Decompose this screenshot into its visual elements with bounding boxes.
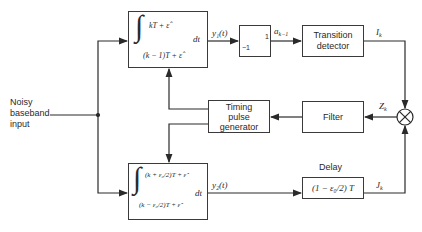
bottom-integrator-block: ∫ (k + ε₀/2)T + ε̂ (k − ε₀/2)T + ε̂ dt	[128, 163, 208, 220]
limiter-low-label: −1	[242, 42, 250, 53]
timing-line-2: pulse	[228, 112, 250, 122]
y2-signal-label: y₂(t)	[212, 180, 228, 191]
integral-sign-icon: ∫	[135, 20, 143, 31]
transition-detector-line-1: Transition	[313, 30, 352, 41]
top-integrator-upper-limit: kT + ε̂	[149, 20, 169, 31]
I-subscript: k	[379, 32, 382, 38]
Z-signal-label: Zk	[379, 101, 387, 115]
hard-limiter-block: −1 1	[239, 25, 271, 57]
transition-detector-line-2: detector	[317, 41, 350, 52]
filter-label: Filter	[323, 112, 343, 123]
J-subscript: k	[380, 185, 383, 191]
J-signal-label: Jk	[376, 180, 383, 194]
timing-line-1: Timing	[226, 102, 253, 112]
timing-line-3: generator	[220, 122, 259, 132]
a-signal-label: ak−1	[274, 26, 288, 40]
bottom-integrator-lower-limit: (k − ε₀/2)T + ε̂	[139, 200, 180, 211]
delay-title: Delay	[319, 162, 342, 173]
y1-signal-label: y₁(t)	[212, 28, 228, 39]
a-subscript: k−1	[279, 31, 289, 37]
bottom-integrator-dt: dt	[195, 188, 202, 199]
integral-sign-icon: ∫	[133, 172, 141, 183]
delay-block: (1 − ε₀/2) T	[302, 177, 364, 199]
noisy-baseband-input-label: Noisy baseband input	[10, 97, 58, 130]
transition-detector-block: Transition detector	[302, 25, 364, 57]
top-integrator-block: ∫ kT + ε̂ (k − 1)T + ε̂ dt	[128, 11, 208, 68]
limiter-high-label: 1	[265, 31, 269, 42]
input-line-2: baseband	[10, 108, 58, 119]
Z-subscript: k	[384, 106, 387, 112]
delay-expression: (1 − ε₀/2) T	[312, 183, 354, 194]
timing-pulse-generator-block: Timing pulse generator	[208, 100, 270, 133]
filter-block: Filter	[302, 101, 364, 133]
input-line-3: input	[10, 119, 58, 130]
I-signal-label: Ik	[376, 27, 382, 41]
bottom-integrator-upper-limit: (k + ε₀/2)T + ε̂	[145, 170, 186, 181]
top-integrator-dt: dt	[193, 34, 200, 45]
top-integrator-lower-limit: (k − 1)T + ε̂	[143, 50, 182, 61]
input-line-1: Noisy	[10, 97, 58, 108]
